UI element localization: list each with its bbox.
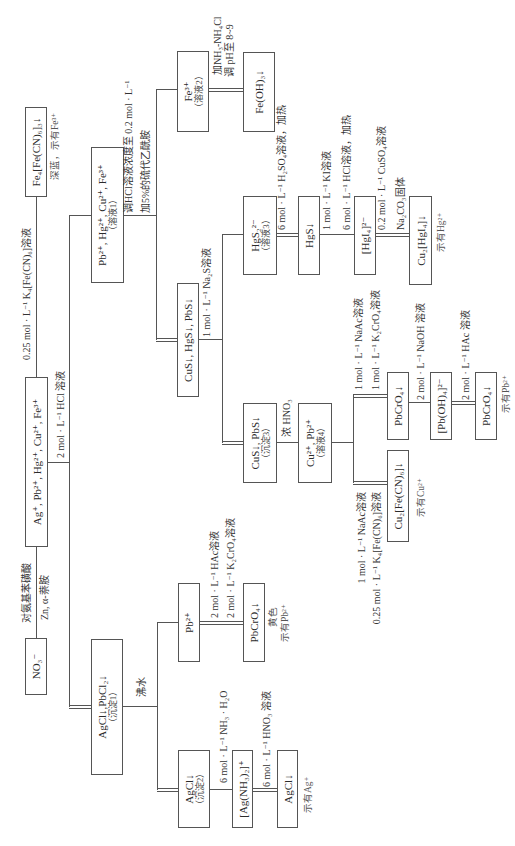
- node-sulfides: CuS↓, HgS↓, PbS↓: [177, 283, 199, 397]
- node-tetraiodomercurate: [HgI₄]²⁻: [354, 196, 376, 275]
- connector-line: [156, 89, 177, 90]
- precipitate-connector: [353, 481, 387, 485]
- node-label: [Pb(OH)₄]²⁻: [435, 378, 447, 433]
- node-lead-chromate-final: PbCrO₄↓: [475, 372, 497, 440]
- reagent-label: 1 mol · L⁻¹ NaAc溶液: [353, 298, 364, 390]
- connector-line: [123, 706, 157, 707]
- node-label: Fe³⁺: [182, 81, 194, 101]
- node-solution-3: HgS₂²⁻（溶液3）: [243, 196, 277, 275]
- node-label: Cu₂[Fe(CN)₆]↓: [392, 463, 404, 530]
- node-plumbite: [Pb(OH)₄]²⁻: [430, 372, 452, 440]
- node-solution-1: Pb²⁺, Hg²⁺, Cu²⁺, Fe³⁺（溶液1）: [91, 147, 124, 283]
- connector-bus: [69, 215, 70, 707]
- node-label: NO₃⁻: [30, 654, 42, 680]
- reagent-label: 调HCl溶液浓度至 0.2 mol · L⁻¹: [123, 81, 134, 213]
- node-sublabel: （沉淀2）: [195, 769, 206, 810]
- reagent-label: 调 pH至 8~9: [224, 24, 235, 77]
- connector-line: [210, 789, 232, 790]
- precipitate-connector: [253, 788, 277, 792]
- connector-line: [332, 442, 353, 443]
- connector-line: [124, 215, 156, 216]
- node-label: Cu₂[HgI₄]↓: [415, 215, 427, 265]
- result-note: 示有Ag⁺: [303, 776, 314, 813]
- reagent-label: 1 mol · L⁻¹ NaAc溶液: [356, 492, 367, 584]
- result-note: 黄色: [268, 607, 279, 627]
- precipitate-connector: [376, 233, 409, 237]
- node-sublabel: （溶液1）: [108, 195, 119, 236]
- node-copper-ferrocyanide: Cu₂[Fe(CN)₆]↓: [387, 450, 409, 542]
- connector-line: [409, 402, 430, 403]
- node-label: [HgI₄]²⁻: [359, 217, 371, 254]
- node-precipitate-1: AgCl↓,PbCl₂↓（沉淀1）: [91, 639, 123, 775]
- precipitate-connector: [156, 338, 177, 342]
- reagent-label: 2 mol · L⁻¹ NaOH 溶液: [415, 303, 426, 400]
- node-label: CuS↓, PbS↓: [249, 416, 261, 469]
- node-label: AgCl↓: [282, 774, 294, 803]
- connector-line: [320, 234, 354, 235]
- precipitate-connector: [69, 705, 91, 709]
- precipitate-connector: [277, 233, 298, 237]
- reagent-label: 0.2 mol · L⁻¹ CuSO₄溶液: [376, 126, 387, 230]
- connector-line: [222, 234, 243, 235]
- reagent-label: 加5%的硫代乙酰胺: [140, 130, 151, 213]
- node-sublabel: （沉淀3）: [261, 423, 272, 464]
- node-mercury-sulfide: HgS↓: [298, 196, 320, 275]
- reagent-label: Na₂CO₃固体: [395, 177, 406, 230]
- precipitate-connector: [353, 394, 387, 398]
- connector-line: [199, 339, 222, 340]
- result-note: 示有Hg²⁺: [436, 213, 447, 252]
- reagent-label: Zn, α-萘胺: [39, 575, 50, 620]
- result-note: 示有Pb²⁺: [501, 375, 512, 413]
- node-iron-hydroxide: Fe(OH)₃↓: [243, 52, 275, 132]
- reagent-label: 沸水: [136, 677, 147, 697]
- precipitate-connector: [209, 88, 243, 92]
- node-solution-2: Fe³⁺（溶液2）: [177, 51, 209, 132]
- node-sublabel: （溶液2）: [194, 71, 205, 112]
- precipitate-connector: [157, 788, 178, 792]
- result-note: 示有Pb²⁺: [280, 604, 291, 642]
- node-lead-chromate-yellow: PbCrO₄↓: [243, 583, 265, 662]
- reagent-label: 6 mol · L⁻¹ HCl溶液，加热: [341, 115, 352, 230]
- reagent-label: 2 mol · L⁻¹ HAc 溶液: [460, 310, 471, 400]
- node-label: HgS↓: [303, 223, 315, 248]
- node-label: AgCl↓: [183, 774, 195, 803]
- node-label: Fe₄[Fe(CN)₆]₃↓: [30, 118, 42, 187]
- reagent-label: 加NH₃-NH₄Cl: [212, 16, 223, 75]
- reagent-label: 2 mol · L⁻¹ HCl 溶液: [55, 371, 66, 458]
- node-precipitate-2: AgCl↓（沉淀2）: [178, 750, 210, 828]
- reagent-label: 2 mol · L⁻¹ HAc溶液: [209, 531, 220, 618]
- precipitate-connector: [200, 621, 243, 625]
- connector-line: [69, 215, 91, 216]
- reagent-label: 0.25 mol · L⁻¹ K₄[Fe(CN)₆]溶液: [371, 492, 382, 624]
- node-silver-ammine: [Ag(NH₃)₂]⁺: [232, 750, 253, 828]
- node-sublabel: （溶液3）: [261, 215, 272, 256]
- connector-line: [277, 442, 298, 443]
- node-prussian-blue: Fe₄[Fe(CN)₆]₃↓: [25, 107, 47, 197]
- connector-bus: [156, 89, 157, 340]
- reagent-label: 1 mol · L⁻¹ KI溶液: [321, 151, 332, 230]
- node-label: Ag⁺, Pb²⁺, Hg²⁺, Cu²⁺, Fe³⁺: [31, 399, 43, 526]
- node-label: PbCrO₄↓: [248, 603, 260, 643]
- node-copper-tetraiodomercurate: Cu₂[HgI₄]↓: [409, 196, 432, 285]
- result-note: 示有Cu²⁺: [416, 478, 427, 517]
- connector-bus: [222, 234, 223, 443]
- reagent-label: 2 mol · L⁻¹ K₂CrO₄溶液: [225, 518, 236, 618]
- node-solution-4: Cu²⁺, Pb²⁺（溶液4）: [298, 403, 332, 483]
- reagent-label: 对氨基苯磺酸: [21, 563, 32, 623]
- node-label: CuS↓, HgS↓, PbS↓: [182, 298, 194, 382]
- cation-analysis-flowchart: NO₃⁻ Ag⁺, Pb²⁺, Hg²⁺, Cu²⁺, Fe³⁺ Fe₄[Fe(…: [0, 0, 515, 846]
- precipitate-connector: [222, 441, 243, 445]
- node-label: PbCrO₄↓: [480, 386, 492, 426]
- connector-bus: [353, 395, 354, 483]
- reagent-label: 1 mol · L⁻¹ Na₂S溶液: [201, 248, 212, 337]
- node-precipitate-3: CuS↓, PbS↓（沉淀3）: [243, 403, 277, 483]
- reagent-label: 1 mol · L⁻¹ K₂CrO₄溶液: [370, 290, 381, 390]
- node-label: AgCl↓,PbCl₂↓: [96, 675, 108, 738]
- node-label: [Ag(NH₃)₂]⁺: [237, 760, 249, 817]
- precipitate-connector: [452, 401, 475, 405]
- reagent-label: 6 mol · L⁻¹ H₂SO₄溶液，加热: [276, 105, 287, 230]
- node-label: Pb²⁺: [183, 612, 195, 633]
- node-label: Pb²⁺, Hg²⁺, Cu²⁺, Fe³⁺: [96, 164, 108, 266]
- node-unknown-cations: Ag⁺, Pb²⁺, Hg²⁺, Cu²⁺, Fe³⁺: [25, 377, 48, 547]
- reagent-label: 6 mol · L⁻¹ HNO₃ 溶液: [261, 691, 272, 787]
